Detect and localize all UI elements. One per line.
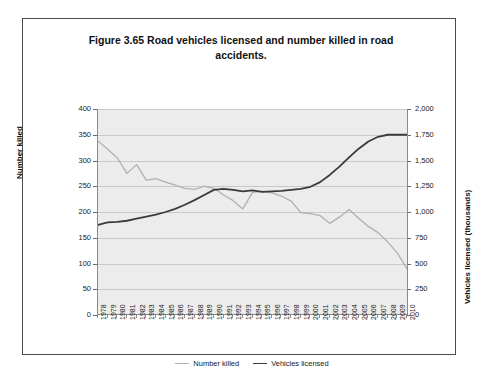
y-axis-left-tick-label: 400: [61, 105, 91, 113]
legend-entry: Number killed: [175, 359, 239, 368]
y-axis-right-tick-label: 250: [415, 285, 455, 293]
chart-legend: Number killedVehicles licensed: [97, 359, 407, 368]
x-axis-tick-mark: [290, 314, 291, 318]
series-lines: [98, 109, 407, 315]
x-axis-tick-mark: [174, 314, 175, 318]
x-axis-tick-mark: [126, 314, 127, 318]
x-axis-tick-mark: [213, 314, 214, 318]
x-axis-tick-mark: [280, 314, 281, 318]
x-axis-tick-mark: [387, 314, 388, 318]
figure-frame: Figure 3.65 Road vehicles licensed and n…: [22, 18, 456, 355]
x-axis-tick-mark: [396, 314, 397, 318]
legend-label: Vehicles licensed: [271, 359, 329, 368]
x-axis-tick-mark: [223, 314, 224, 318]
y-axis-left-tick-label: 150: [61, 234, 91, 242]
y-axis-right-title: Vehicles licensed (thousands): [463, 190, 472, 304]
y-axis-right-tick-label: 500: [415, 260, 455, 268]
y-axis-right-tick-label: 750: [415, 234, 455, 242]
x-axis-tick-mark: [300, 314, 301, 318]
y-axis-left-title: Number killed: [15, 126, 24, 179]
legend-entry: Vehicles licensed: [253, 359, 329, 368]
x-axis-tick-mark: [309, 314, 310, 318]
legend-label: Number killed: [193, 359, 239, 368]
y-axis-left-tick-label: 0: [61, 311, 91, 319]
y-axis-right-tick-label: 2,000: [415, 105, 455, 113]
y-axis-left-tick-label: 50: [61, 285, 91, 293]
chart-title: Figure 3.65 Road vehicles licensed and n…: [63, 33, 419, 63]
y-axis-left-tick-label: 250: [61, 182, 91, 190]
y-axis-left-tick-label: 100: [61, 260, 91, 268]
x-axis-tick-mark: [107, 314, 108, 318]
x-axis-tick-mark: [377, 314, 378, 318]
x-axis-tick-mark: [406, 314, 407, 318]
x-axis-tick-mark: [184, 314, 185, 318]
series-line-vehicles-licensed: [98, 135, 407, 225]
x-axis-tick-mark: [358, 314, 359, 318]
x-axis-tick-mark: [367, 314, 368, 318]
y-axis-left-tick-label: 200: [61, 208, 91, 216]
x-axis-tick-mark: [261, 314, 262, 318]
legend-swatch: [175, 363, 189, 364]
x-axis-tick-mark: [165, 314, 166, 318]
y-axis-right-tick-label: 1,500: [415, 157, 455, 165]
x-axis-tick-mark: [155, 314, 156, 318]
x-axis-tick-mark: [271, 314, 272, 318]
y-axis-right-tick-label: 1,250: [415, 182, 455, 190]
x-axis-tick-mark: [203, 314, 204, 318]
x-axis-tick-mark: [97, 314, 98, 318]
x-axis-tick-mark: [319, 314, 320, 318]
x-axis-tick-mark: [252, 314, 253, 318]
x-axis-tick-label: 2010: [409, 304, 416, 320]
x-axis-tick-mark: [194, 314, 195, 318]
x-axis-tick-mark: [116, 314, 117, 318]
x-axis-tick-mark: [145, 314, 146, 318]
x-axis-tick-mark: [348, 314, 349, 318]
x-axis-labels: 1978197919801981198219831984198519861987…: [97, 318, 409, 358]
x-axis-tick-mark: [338, 314, 339, 318]
series-line-number-killed: [98, 141, 407, 269]
y-axis-right-tick-label: 1,750: [415, 131, 455, 139]
y-axis-left-tick-label: 300: [61, 157, 91, 165]
y-axis-right-spine: [407, 109, 408, 315]
x-axis-tick-mark: [136, 314, 137, 318]
y-axis-right-tick-label: 0: [415, 311, 455, 319]
x-axis-tick-mark: [232, 314, 233, 318]
y-axis-right-tick-label: 1,000: [415, 208, 455, 216]
y-axis-left-tick-label: 350: [61, 131, 91, 139]
plot-area: [97, 109, 407, 315]
x-axis-tick-mark: [242, 314, 243, 318]
legend-swatch: [253, 363, 267, 364]
x-axis-tick-mark: [329, 314, 330, 318]
